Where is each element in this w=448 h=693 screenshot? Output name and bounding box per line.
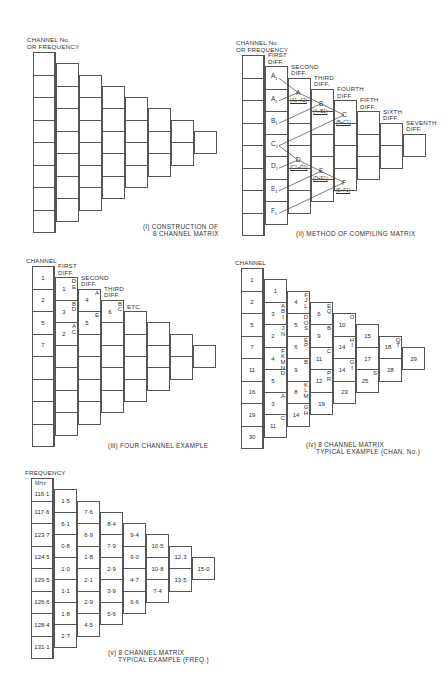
- matrix-cell: 7·4: [146, 579, 169, 603]
- matrix-cell: 5·6: [100, 602, 123, 626]
- matrix-cell: [56, 108, 79, 132]
- matrix-cell: 10·8: [146, 557, 169, 581]
- difference-value: 5: [294, 322, 297, 328]
- matrix-cell: [55, 412, 78, 436]
- intermod-tag: C: [280, 416, 286, 422]
- matrix-cell: [32, 356, 55, 380]
- derived-sum: (A1+A2): [290, 98, 307, 103]
- channel-value: 11: [249, 367, 255, 373]
- matrix-cell: 1: [241, 268, 264, 292]
- matrix-cell: 9·4: [123, 523, 146, 547]
- difference-value: 3·9: [107, 588, 116, 594]
- derived-label: D: [296, 156, 301, 163]
- difference-value: 1: [274, 288, 277, 294]
- channel-value: 123·7: [34, 532, 49, 538]
- matrix-cell: 14GI: [333, 358, 356, 382]
- channel-value: 1: [41, 275, 44, 281]
- intermod-tag: DOS: [303, 315, 309, 332]
- difference-value: 3: [271, 401, 274, 407]
- difference-value: 1·1: [61, 588, 70, 594]
- matrix-cell: [33, 142, 56, 166]
- matrix-cell: [33, 187, 56, 211]
- intermod-tag: E: [94, 313, 100, 319]
- difference-value: 8·4: [107, 521, 116, 527]
- matrix-cell: 28: [379, 358, 402, 382]
- matrix-cell: 9B: [287, 358, 310, 382]
- matrix-cell: 6BC: [101, 300, 124, 324]
- intermod-tag: C: [326, 349, 332, 355]
- matrix-cell: 16: [241, 381, 264, 405]
- channel-value: 30: [249, 434, 256, 440]
- difference-value: 13·5: [174, 577, 186, 583]
- channel-value: 1: [250, 277, 253, 283]
- matrix-cell: 25S: [356, 369, 379, 393]
- difference-value: 6·9: [84, 532, 93, 538]
- matrix-cell: 1·1: [54, 579, 77, 603]
- matrix-cell: 14GH: [287, 403, 310, 427]
- matrix-cell: [102, 108, 125, 132]
- intermod-tag: DE: [71, 279, 77, 290]
- intermod-tag: EP: [303, 338, 309, 349]
- first-diff-label: A2: [271, 95, 278, 104]
- matrix-cell: [357, 134, 380, 158]
- difference-value: 14: [339, 367, 346, 373]
- matrix-cell: [171, 142, 194, 166]
- matrix-cell: [242, 78, 265, 102]
- matrix-cell: 11C: [310, 347, 333, 371]
- intermod-tag: B: [326, 326, 332, 332]
- matrix-cell: 2·1: [77, 568, 100, 592]
- difference-value: 2: [62, 331, 65, 337]
- matrix-cell: 5E: [78, 311, 101, 335]
- matrix-cell: 117·6: [31, 501, 54, 525]
- intermod-tag: B: [303, 360, 309, 366]
- difference-value: 2·9: [84, 599, 93, 605]
- matrix-cell: [33, 210, 56, 234]
- difference-value: 4·5: [84, 622, 93, 628]
- matrix-cell: [170, 334, 193, 358]
- channel-value: 2: [250, 299, 253, 305]
- matrix-cell: 4·7: [123, 568, 146, 592]
- matrix-cell: [147, 322, 170, 346]
- derived-sum: (A+B1): [313, 109, 327, 114]
- matrix-cell: [102, 176, 125, 200]
- matrix-cell: [288, 123, 311, 147]
- matrix-cell: 129·5: [31, 568, 54, 592]
- derived-label: C: [342, 111, 347, 118]
- first-diff-label: D1: [271, 162, 278, 171]
- difference-value: 28: [387, 367, 394, 373]
- matrix-cell: [148, 108, 171, 132]
- difference-value: 1·8: [61, 611, 70, 617]
- difference-value: 17: [364, 356, 371, 362]
- matrix-cell: 7: [32, 334, 55, 358]
- channel-value: 19: [249, 412, 256, 418]
- matrix-cell: [55, 390, 78, 414]
- unit-label: MHz: [35, 480, 46, 487]
- difference-value: 7·4: [153, 588, 162, 594]
- intermod-tag: BD: [71, 302, 77, 313]
- matrix-cell: [242, 100, 265, 124]
- difference-value: 9·4: [130, 532, 139, 538]
- matrix-cell: [55, 345, 78, 369]
- intermod-tag: PR: [326, 371, 332, 382]
- matrix-cell: 11C: [264, 414, 287, 438]
- matrix-cell: [124, 311, 147, 335]
- matrix-cell: [170, 356, 193, 380]
- matrix-cell: 12·3: [169, 546, 192, 570]
- channel-value: 5: [41, 320, 44, 326]
- matrix-cell: 17: [356, 347, 379, 371]
- matrix-cell: 0·8: [54, 534, 77, 558]
- matrix-cell: 4A: [78, 289, 101, 313]
- intermod-tag: FJL: [303, 293, 309, 310]
- matrix-cell: 6·1: [54, 512, 77, 536]
- matrix-cell: [288, 168, 311, 192]
- matrix-cell: [124, 334, 147, 358]
- matrix-cell: [78, 379, 101, 403]
- difference-value: 2: [271, 333, 274, 339]
- figure-caption: TYPICAL EXAMPLE (CHAN. No.): [316, 448, 420, 455]
- matrix-cell: [288, 100, 311, 124]
- difference-value: 15·0: [197, 566, 209, 572]
- channel-value: 116·1: [35, 491, 50, 497]
- matrix-cell: [242, 145, 265, 169]
- matrix-cell: 126·6: [31, 591, 54, 615]
- derived-sum: (D+E1): [313, 176, 328, 181]
